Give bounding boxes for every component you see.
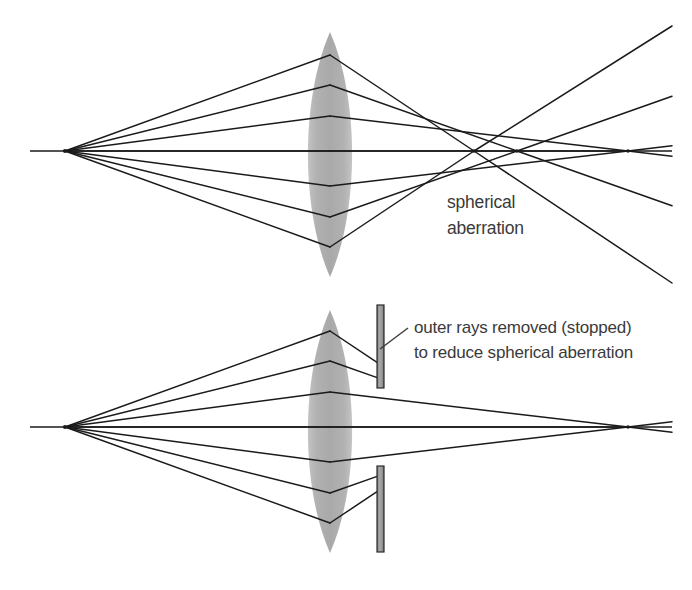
optics-diagram-canvas: spherical aberration outer rays removed … — [0, 0, 692, 590]
focal-point-marker-0 — [626, 425, 630, 429]
focal-point-marker-0 — [472, 149, 476, 153]
spherical-aberration-label-line-2: aberration — [447, 218, 524, 238]
point-source-marker — [63, 425, 67, 429]
stopped-caption-line-2: to reduce spherical aberration — [414, 343, 633, 362]
lower-aperture-stop — [377, 466, 384, 552]
stopped-caption-line-1: outer rays removed (stopped) — [414, 318, 631, 337]
point-source-marker — [63, 149, 67, 153]
focal-point-marker-2 — [626, 149, 630, 153]
focal-point-marker-1 — [515, 149, 519, 153]
optics-figure: spherical aberration outer rays removed … — [0, 0, 692, 590]
spherical-aberration-label-line-1: spherical — [447, 192, 515, 212]
